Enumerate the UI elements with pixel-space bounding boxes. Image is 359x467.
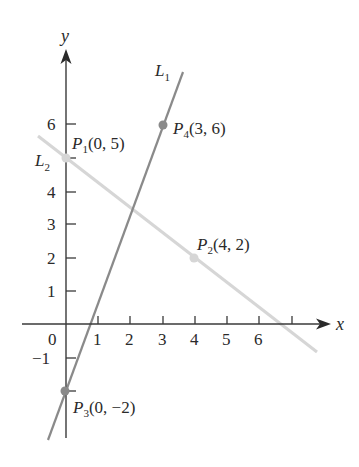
point-p2-label: P2(4, 2) [196, 235, 250, 256]
y-tick-label-2: 2 [47, 249, 56, 268]
x-axis-ticks [98, 316, 292, 324]
x-tick-label-6: 6 [254, 330, 263, 349]
x-tick-label-5: 5 [222, 330, 231, 349]
line-l2-label: L2 [34, 151, 50, 173]
y-axis-label: y [59, 26, 69, 46]
x-axis-label: x [335, 314, 344, 334]
x-tick-label-3: 3 [158, 330, 167, 349]
x-tick-label-2: 2 [125, 330, 134, 349]
point-p1-label: P1(0, 5) [71, 134, 125, 155]
x-tick-label-0: 0 [48, 330, 57, 349]
point-p3-label: P3(0, −2) [72, 398, 135, 419]
point-p4-marker [159, 121, 168, 130]
y-tick-label-6: 6 [47, 115, 56, 134]
line-l1-label: L1 [154, 61, 170, 83]
x-tick-label-4: 4 [190, 330, 199, 349]
y-tick-label-4: 4 [47, 183, 56, 202]
y-axis [61, 49, 77, 438]
y-tick-label-3: 3 [47, 215, 56, 234]
point-p1-marker [62, 154, 71, 163]
point-p4-label: P4(3, 6) [172, 119, 226, 140]
point-p3-marker [61, 387, 70, 396]
point-p2-marker [190, 254, 199, 263]
line-l2 [38, 136, 317, 352]
y-tick-label-1: 1 [47, 282, 56, 301]
coordinate-plane-diagram: x y 0 1 2 3 4 5 6 −1 1 2 3 4 6 L1 L2 P1(… [0, 0, 359, 467]
x-tick-label-1: 1 [93, 330, 102, 349]
y-tick-label-neg1: −1 [32, 349, 50, 368]
x-tick-labels: 0 1 2 3 4 5 6 [48, 330, 263, 349]
